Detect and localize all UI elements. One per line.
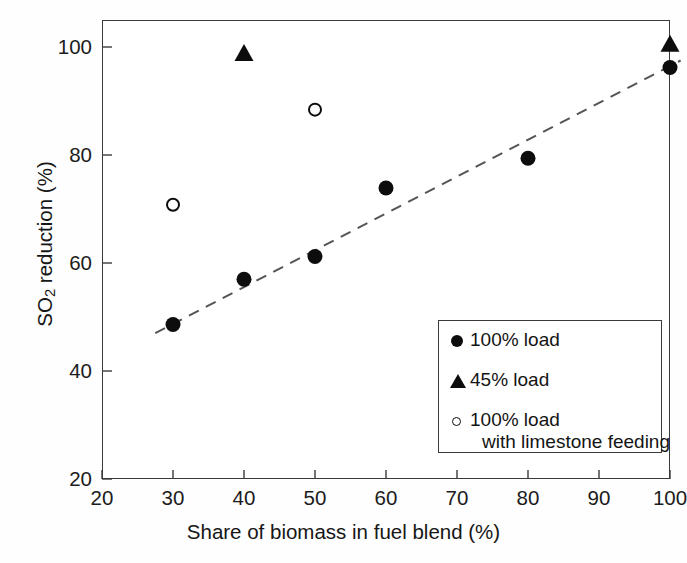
y-axis-title: SO2 reduction (%): [33, 94, 58, 394]
legend-item[interactable]: 100% loadwith limestone feeding: [450, 409, 670, 453]
legend-item-label: 100% load: [470, 329, 560, 351]
legend-marker-shape: [452, 417, 461, 426]
legend-item-label: 45% load: [470, 369, 549, 391]
legend-item-label-line1: 100% load: [470, 409, 560, 430]
x-tick-label: 40: [233, 486, 256, 510]
legend-marker-filled-circle-icon: [450, 329, 470, 351]
legend-marker-shape: [451, 335, 463, 347]
x-tick-label: 90: [588, 486, 611, 510]
chart-figure: 20406080100 2030405060708090100 Share of…: [0, 0, 687, 563]
y-tick-label: 100: [20, 35, 92, 59]
x-tick-label: 80: [517, 486, 540, 510]
legend-box: 100% load45% load100% loadwith limestone…: [438, 320, 662, 453]
x-tick-label: 60: [375, 486, 398, 510]
x-tick-label: 30: [162, 486, 185, 510]
legend-marker-open-circle-icon: [450, 409, 470, 431]
x-tick-label: 50: [304, 486, 327, 510]
y-axis-title-text: SO2 reduction (%): [33, 161, 56, 326]
x-tick-label: 100: [653, 486, 687, 510]
legend-item-label-line2: with limestone feeding: [482, 431, 670, 453]
legend-item-label-line1: 45% load: [470, 369, 549, 390]
legend-item-label: 100% loadwith limestone feeding: [470, 409, 670, 453]
x-tick-label: 20: [91, 486, 114, 510]
x-tick-label: 70: [446, 486, 469, 510]
legend-item-label-line1: 100% load: [470, 329, 560, 350]
legend-item[interactable]: 100% load: [450, 329, 560, 351]
y-axis-title-subscript: 2: [42, 289, 58, 297]
legend-marker-shape: [450, 374, 466, 388]
y-tick-label: 20: [20, 467, 92, 491]
legend-marker-triangle-icon: [450, 369, 470, 391]
legend-item[interactable]: 45% load: [450, 369, 549, 391]
x-axis-title: Share of biomass in fuel blend (%): [0, 520, 687, 544]
